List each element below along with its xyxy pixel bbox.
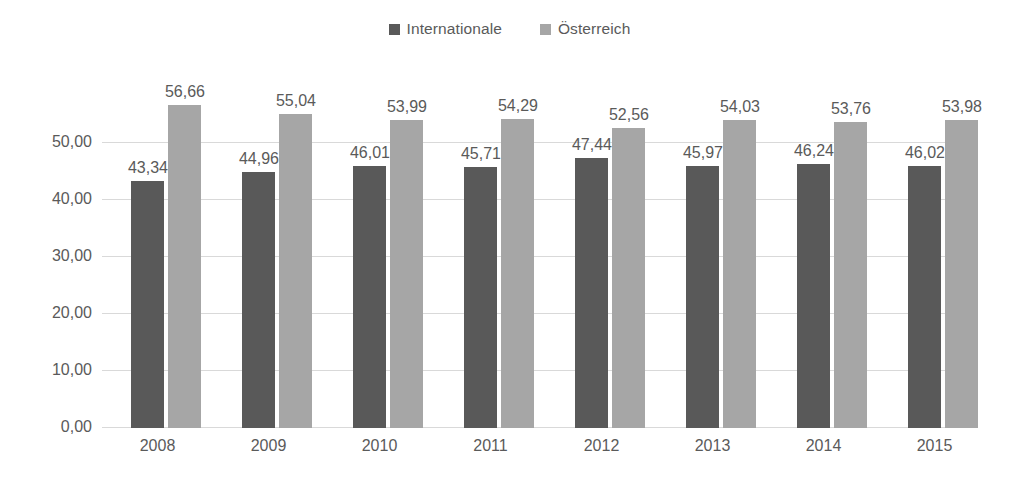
- bar[interactable]: [131, 181, 164, 428]
- legend-swatch-icon: [540, 24, 551, 35]
- bar[interactable]: [168, 105, 201, 428]
- bar-value-label: 54,03: [710, 98, 770, 116]
- bar-group: 47,4452,56: [546, 60, 657, 428]
- bar-group: 46,2453,76: [768, 60, 879, 428]
- bar-group: 43,3456,66: [102, 60, 213, 428]
- chart-legend: Internationale Österreich: [0, 20, 1019, 38]
- bar[interactable]: [464, 167, 497, 428]
- bar-group: 44,9655,04: [213, 60, 324, 428]
- bar-value-label: 54,29: [488, 97, 548, 115]
- x-axis-tick-label: 2013: [657, 437, 768, 455]
- x-axis-tick-label: 2015: [879, 437, 990, 455]
- bar[interactable]: [945, 120, 978, 428]
- x-axis-tick-label: 2010: [324, 437, 435, 455]
- bar[interactable]: [353, 166, 386, 428]
- y-axis-tick-label: 40,00: [22, 190, 92, 208]
- bar-value-label: 53,76: [821, 100, 881, 118]
- x-axis-tick-label: 2014: [768, 437, 879, 455]
- bar-value-label: 53,99: [377, 98, 437, 116]
- bar[interactable]: [612, 128, 645, 428]
- x-axis-tick-label: 2011: [435, 437, 546, 455]
- bar[interactable]: [723, 120, 756, 428]
- legend-label-internationale: Internationale: [407, 20, 502, 38]
- bar[interactable]: [279, 114, 312, 428]
- bar-value-label: 56,66: [155, 83, 215, 101]
- x-axis: 20082009201020112012201320142015: [102, 437, 978, 467]
- legend-entry-internationale[interactable]: Internationale: [389, 20, 502, 38]
- bars-layer: 43,3456,6644,9655,0446,0153,9945,7154,29…: [102, 60, 978, 428]
- bar[interactable]: [575, 158, 608, 428]
- y-axis-tick-label: 0,00: [22, 418, 92, 436]
- bar-group: 45,7154,29: [435, 60, 546, 428]
- bar[interactable]: [390, 120, 423, 428]
- y-axis: 0,0010,0020,0030,0040,0050,00: [18, 142, 92, 427]
- bar-chart: Internationale Österreich 0,0010,0020,00…: [0, 0, 1019, 497]
- bar[interactable]: [908, 166, 941, 428]
- bar[interactable]: [797, 164, 830, 428]
- y-axis-tick-label: 30,00: [22, 247, 92, 265]
- y-axis-tick-label: 10,00: [22, 361, 92, 379]
- x-axis-tick-label: 2009: [213, 437, 324, 455]
- legend-label-oesterreich: Österreich: [558, 20, 631, 38]
- bar-value-label: 52,56: [599, 106, 659, 124]
- y-axis-tick-label: 20,00: [22, 304, 92, 322]
- x-axis-tick-label: 2008: [102, 437, 213, 455]
- bar-group: 45,9754,03: [657, 60, 768, 428]
- bar[interactable]: [501, 119, 534, 428]
- bar[interactable]: [834, 122, 867, 428]
- bar-value-label: 53,98: [932, 98, 992, 116]
- bar-group: 46,0153,99: [324, 60, 435, 428]
- bar-group: 46,0253,98: [879, 60, 990, 428]
- bar-value-label: 55,04: [266, 92, 326, 110]
- bar[interactable]: [686, 166, 719, 428]
- x-axis-tick-label: 2012: [546, 437, 657, 455]
- legend-swatch-icon: [389, 24, 400, 35]
- y-axis-tick-label: 50,00: [22, 133, 92, 151]
- legend-entry-oesterreich[interactable]: Österreich: [540, 20, 631, 38]
- bar[interactable]: [242, 172, 275, 428]
